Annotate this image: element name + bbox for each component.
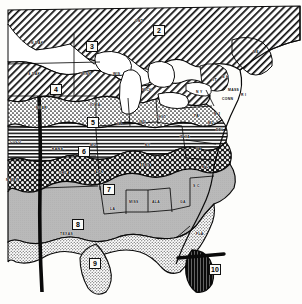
state-label-w-va: W VA xyxy=(180,135,190,139)
state-label-colo: COLO xyxy=(10,140,21,144)
state-label-r-i: R I xyxy=(241,93,246,97)
map-svg xyxy=(0,0,302,304)
zone-label-4: 4 xyxy=(50,84,62,95)
zone-label-10: 10 xyxy=(209,264,221,275)
state-label-me: ME xyxy=(253,50,259,54)
state-label-del: DEL xyxy=(216,128,224,132)
zone-label-3: 3 xyxy=(86,41,98,52)
state-label-md: MD xyxy=(208,121,214,125)
state-label-iowa: IOWA xyxy=(90,103,100,107)
zone-map-figure: 2345678910 N DAKS DAKMINNWISMICHNEBRIOWA… xyxy=(0,0,302,304)
state-label-mich: MICH xyxy=(142,88,152,92)
state-label-nebr: NEBR xyxy=(36,106,47,110)
state-label-conn: CONN xyxy=(222,97,233,101)
state-label-mass: MASS xyxy=(228,88,239,92)
state-label-n-y: N Y xyxy=(196,90,203,94)
zone-label-6: 6 xyxy=(78,146,90,157)
zone-label-8: 8 xyxy=(72,219,84,230)
state-label-ohio: OHIO xyxy=(156,115,166,119)
state-label-wis: WIS xyxy=(113,72,120,76)
zone-label-9: 9 xyxy=(89,258,101,269)
state-label-ala: ALA xyxy=(152,200,160,204)
state-label-ky: KY xyxy=(145,143,150,147)
zone-label-7: 7 xyxy=(103,184,115,195)
state-label-ind: IND xyxy=(139,120,146,124)
state-label-mo: MO xyxy=(90,143,96,147)
zone-label-2: 2 xyxy=(153,25,165,36)
state-label-minn: MINN xyxy=(81,72,91,76)
state-label-la: LA xyxy=(110,207,115,211)
state-label-ont: ONT xyxy=(135,19,143,23)
map-canvas xyxy=(0,0,302,304)
state-label-n-mex: N MEX xyxy=(6,178,19,182)
zone-label-5: 5 xyxy=(87,117,99,128)
state-label-okla: OKLA xyxy=(59,171,70,175)
state-label-s-dak: S DAK xyxy=(28,72,40,76)
state-label-pa: PA xyxy=(194,114,199,118)
state-label-n-c: N C xyxy=(202,165,209,169)
state-label-ark: ARK xyxy=(95,170,103,174)
state-label-vt: VT xyxy=(212,78,217,82)
state-label-n-dak: N DAK xyxy=(31,41,44,45)
meridian-line xyxy=(39,96,42,292)
state-label-texas: TEXAS xyxy=(60,232,73,236)
state-label-ga: GA xyxy=(180,200,186,204)
state-label-ill: ILL xyxy=(117,122,123,126)
state-label-n-h: N H xyxy=(222,75,229,79)
state-label-fla: FLA xyxy=(196,232,204,236)
state-label-kans: KANS xyxy=(52,147,63,151)
state-label-va: VA xyxy=(196,147,201,151)
state-label-n-j: N J xyxy=(214,112,220,116)
state-label-s-c: S C xyxy=(193,184,200,188)
state-label-miss: MISS xyxy=(129,200,139,204)
state-label-tenn: TENN xyxy=(140,163,151,167)
